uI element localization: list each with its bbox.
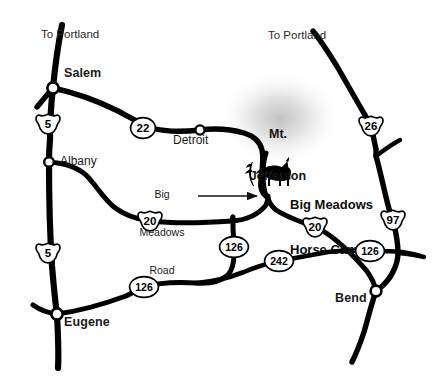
route-marker-26-9: 26 bbox=[357, 114, 385, 138]
route-shield-number: 20 bbox=[309, 221, 322, 233]
route-marker-97-10: 97 bbox=[379, 208, 407, 232]
city-label-salem: Salem bbox=[64, 66, 101, 80]
route-shield-circle: 126 bbox=[128, 275, 160, 299]
road-us26-spur bbox=[376, 140, 400, 156]
route-shield-number: 5 bbox=[45, 118, 52, 130]
route-marker-242-6: 242 bbox=[263, 249, 295, 273]
destination-label-to-portland-north: To Portland bbox=[268, 29, 326, 42]
route-shield-number: 97 bbox=[387, 214, 400, 226]
route-shield-us-shield: 26 bbox=[357, 114, 385, 138]
city-label-bend: Bend bbox=[335, 291, 367, 305]
route-shield-number: 126 bbox=[225, 241, 243, 253]
route-shield-interstate-shield: 5 bbox=[34, 241, 62, 265]
annotation-line-1: Big bbox=[131, 188, 193, 201]
vicinity-map: To Portland To Portland Salem Albany Eug… bbox=[0, 0, 434, 387]
city-label-detroit: Detroit bbox=[173, 134, 208, 147]
route-shield-circle: 126 bbox=[218, 235, 250, 259]
route-shield-number: 20 bbox=[144, 215, 157, 227]
route-shield-us-shield: 20 bbox=[136, 209, 164, 233]
route-shield-circle: 22 bbox=[129, 116, 157, 140]
city-node-eugene bbox=[51, 308, 62, 319]
city-node-salem bbox=[47, 82, 58, 93]
destination-label-to-portland-west: To Portland bbox=[41, 28, 99, 41]
route-shield-us-shield: 97 bbox=[379, 208, 407, 232]
route-shield-number: 242 bbox=[270, 255, 288, 267]
city-label-eugene: Eugene bbox=[64, 315, 110, 329]
route-shield-number: 126 bbox=[135, 281, 153, 293]
route-shield-number: 5 bbox=[45, 247, 52, 259]
route-marker-20-3: 20 bbox=[136, 209, 164, 233]
poi-label-line-1: Big Meadows bbox=[290, 197, 373, 212]
road-bend-se-stub bbox=[398, 253, 424, 257]
city-node-albany bbox=[44, 157, 54, 167]
route-shield-number: 126 bbox=[361, 245, 379, 257]
route-marker-126-8: 126 bbox=[354, 239, 386, 263]
route-shield-number: 22 bbox=[137, 122, 150, 134]
route-shield-circle: 242 bbox=[263, 249, 295, 273]
route-shield-number: 26 bbox=[365, 120, 378, 132]
route-shield-circle: 126 bbox=[354, 239, 386, 263]
route-marker-5-0: 5 bbox=[34, 112, 62, 136]
route-marker-126-5: 126 bbox=[218, 235, 250, 259]
route-marker-5-1: 5 bbox=[34, 241, 62, 265]
route-shield-us-shield: 20 bbox=[301, 215, 329, 239]
route-marker-22-2: 22 bbox=[129, 116, 157, 140]
route-marker-126-4: 126 bbox=[128, 275, 160, 299]
peak-label-line-1: Mt. bbox=[236, 127, 320, 141]
route-shield-interstate-shield: 5 bbox=[34, 112, 62, 136]
city-label-albany: Albany bbox=[60, 155, 97, 168]
route-marker-20-7: 20 bbox=[301, 215, 329, 239]
